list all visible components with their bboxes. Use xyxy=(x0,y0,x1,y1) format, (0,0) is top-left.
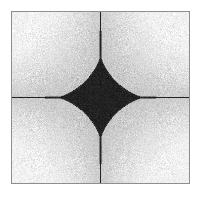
astroid-plot-canvas xyxy=(12,12,189,183)
plot-frame xyxy=(11,11,190,184)
figure-root: Astroid diffraction pattern xyxy=(0,0,201,199)
